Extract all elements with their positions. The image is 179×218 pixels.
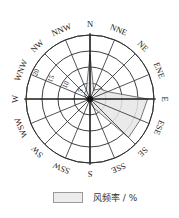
direction-label-n: N — [87, 19, 93, 29]
direction-label-w: W — [10, 95, 20, 103]
direction-label-se: SE — [136, 145, 150, 159]
ring-labels: 5101520 — [31, 67, 85, 94]
direction-label-nnw: NNW — [50, 21, 73, 38]
direction-label-sse: SSE — [110, 161, 127, 176]
center-dot — [87, 96, 93, 102]
direction-label-ene: ENE — [152, 61, 168, 80]
direction-label-nw: NW — [28, 37, 45, 54]
spokes — [24, 33, 156, 165]
ring-label-15: 15 — [46, 73, 56, 83]
legend-swatch — [53, 192, 83, 203]
wind-rose-chart: NNNENEENEEESESESSESSSWSWWSWWWNWNWNNW 510… — [0, 0, 179, 185]
direction-label-s: S — [87, 169, 92, 179]
direction-label-ese: ESE — [152, 119, 167, 137]
spoke-sw — [45, 99, 90, 144]
legend: 风频率 / % — [53, 191, 137, 204]
direction-label-e: E — [160, 96, 170, 101]
direction-label-sw: SW — [29, 144, 45, 160]
direction-label-wsw: WSW — [12, 116, 29, 139]
legend-label: 风频率 / % — [93, 191, 137, 204]
ring-label-10: 10 — [61, 80, 71, 90]
direction-label-ne: NE — [135, 38, 150, 53]
direction-label-nne: NNE — [109, 22, 129, 38]
ring-label-20: 20 — [31, 67, 41, 77]
direction-label-ssw: SSW — [51, 160, 71, 176]
ring-label-5: 5 — [76, 87, 85, 94]
direction-label-wnw: WNW — [12, 58, 30, 82]
